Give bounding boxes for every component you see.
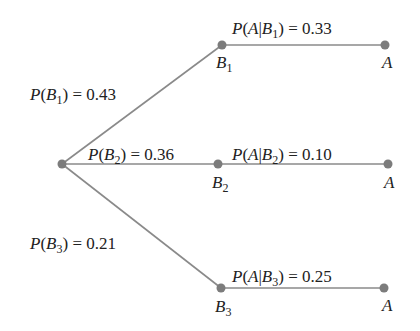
- node-label-b3: B3: [215, 297, 231, 319]
- leaf-a3: [380, 284, 389, 293]
- leaf-label-a2: A: [383, 173, 395, 192]
- node-b2: [214, 160, 223, 169]
- node-b3: [217, 284, 226, 293]
- leaf-a2: [384, 160, 393, 169]
- root-node: [58, 160, 67, 169]
- leaf-a1: [381, 41, 390, 50]
- prob-label-b3: P(B3) = 0.21: [29, 234, 116, 256]
- edge-root-b3: [62, 164, 221, 288]
- leaf-label-a1: A: [381, 53, 393, 72]
- prob-label-b2: P(B2) = 0.36: [87, 145, 174, 167]
- node-label-b1: B1: [216, 53, 232, 75]
- nodes: [58, 41, 393, 293]
- probability-tree-diagram: P(B1) = 0.43 P(B2) = 0.36 P(B3) = 0.21 P…: [0, 0, 420, 331]
- cond-label-b3: P(A|B3) = 0.25: [231, 267, 332, 289]
- prob-label-b1: P(B1) = 0.43: [29, 85, 116, 107]
- leaf-label-a3: A: [381, 296, 393, 315]
- cond-label-b2: P(A|B2) = 0.10: [231, 145, 332, 167]
- node-label-b2: B2: [212, 173, 228, 195]
- cond-label-b1: P(A|B1) = 0.33: [231, 19, 332, 41]
- node-b1: [218, 41, 227, 50]
